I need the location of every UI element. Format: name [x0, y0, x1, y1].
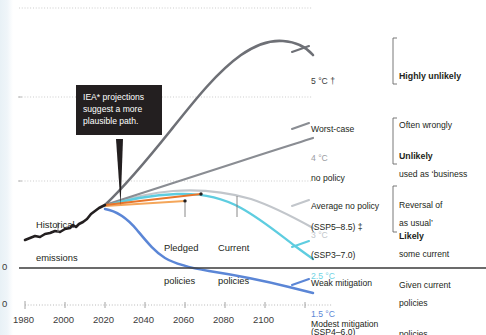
legend-stub-25c	[292, 241, 309, 247]
x-tick-2040: 2040	[133, 314, 154, 325]
callout-pointer	[116, 139, 123, 205]
pledged-end-marker	[183, 199, 186, 202]
iea-callout-box: IEA* projections suggest a more plausibl…	[76, 85, 162, 135]
y-tick-marks	[18, 97, 22, 181]
series-line-15c	[105, 209, 313, 293]
x-tick-2060: 2060	[173, 314, 194, 325]
x-tick-2020: 2020	[93, 314, 114, 325]
legend-stub-15c	[292, 279, 309, 285]
historical-label-line-2: emissions	[36, 252, 78, 263]
pledged-label-line-1: Pledged	[164, 242, 198, 253]
pledged-policies-label: Pledged policies	[164, 219, 198, 309]
current-policies-label: Current policies	[218, 219, 249, 309]
bracket-likely	[393, 186, 397, 232]
likelihood-likely: Likely Given current policies	[399, 193, 451, 335]
bracket-unlikely	[393, 118, 397, 164]
climate-emissions-chart: IEA* projections suggest a more plausibl…	[0, 0, 486, 335]
legend-temp-4c: 4 °C	[311, 153, 379, 164]
x-tick-2000: 2000	[53, 314, 74, 325]
likelihood-body-3-line-1: Given current	[399, 280, 451, 291]
x-axis-origin-label: 0	[2, 298, 7, 309]
x-tick-2100: 2100	[253, 314, 274, 325]
historical-emissions-label: Historical emissions	[36, 196, 78, 286]
scan-edge-artifact	[0, 0, 13, 335]
legend-stub-4c	[292, 123, 309, 129]
legend-temp-5c: 5 °C †	[311, 76, 363, 87]
bracket-highly-unlikely	[393, 38, 397, 84]
likelihood-heading-2: Unlikely	[399, 151, 449, 162]
x-tick-1980: 1980	[13, 314, 34, 325]
current-end-marker	[199, 192, 202, 195]
x-tick-2080: 2080	[213, 314, 234, 325]
callout-line-2: suggest a more	[83, 103, 155, 115]
historical-label-line-1: Historical	[36, 219, 78, 230]
legend-stub-3c	[292, 200, 309, 206]
likelihood-heading-1: Highly unlikely	[399, 71, 467, 82]
likelihood-brackets	[393, 38, 397, 232]
pledged-label-line-2: policies	[164, 275, 198, 286]
callout-line-3: plausible path.	[83, 115, 155, 127]
gridlines	[19, 8, 313, 181]
likelihood-body-3-line-2: policies	[399, 329, 451, 335]
plot-area: IEA* projections suggest a more plausibl…	[13, 0, 486, 335]
current-label-line-2: policies	[218, 275, 249, 286]
current-label-line-1: Current	[218, 242, 249, 253]
zero-line-label: 0	[2, 261, 7, 272]
callout-line-1: IEA* projections	[83, 91, 155, 103]
likelihood-heading-3: Likely	[399, 231, 451, 242]
